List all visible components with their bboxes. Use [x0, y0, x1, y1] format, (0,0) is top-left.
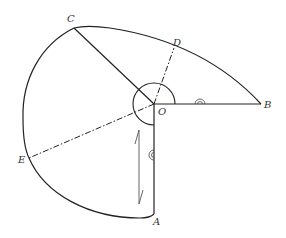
geometry-figure	[0, 0, 286, 238]
label-c: C	[67, 14, 75, 24]
label-d: D	[173, 38, 181, 48]
dashdot-od	[154, 48, 174, 104]
arc-bdc	[74, 27, 261, 105]
equal-length-mark-oa	[149, 150, 154, 160]
dashdot-oe	[29, 104, 154, 158]
double-arrow-icon	[135, 130, 143, 204]
label-e: E	[18, 155, 25, 165]
diagram-canvas: C D B O E A	[0, 0, 286, 238]
label-a: A	[153, 217, 160, 227]
label-b: B	[264, 100, 271, 110]
arc-cea	[23, 28, 154, 218]
label-o: O	[158, 107, 166, 117]
segment-oc	[74, 28, 154, 104]
equal-length-mark-ob	[195, 99, 205, 104]
